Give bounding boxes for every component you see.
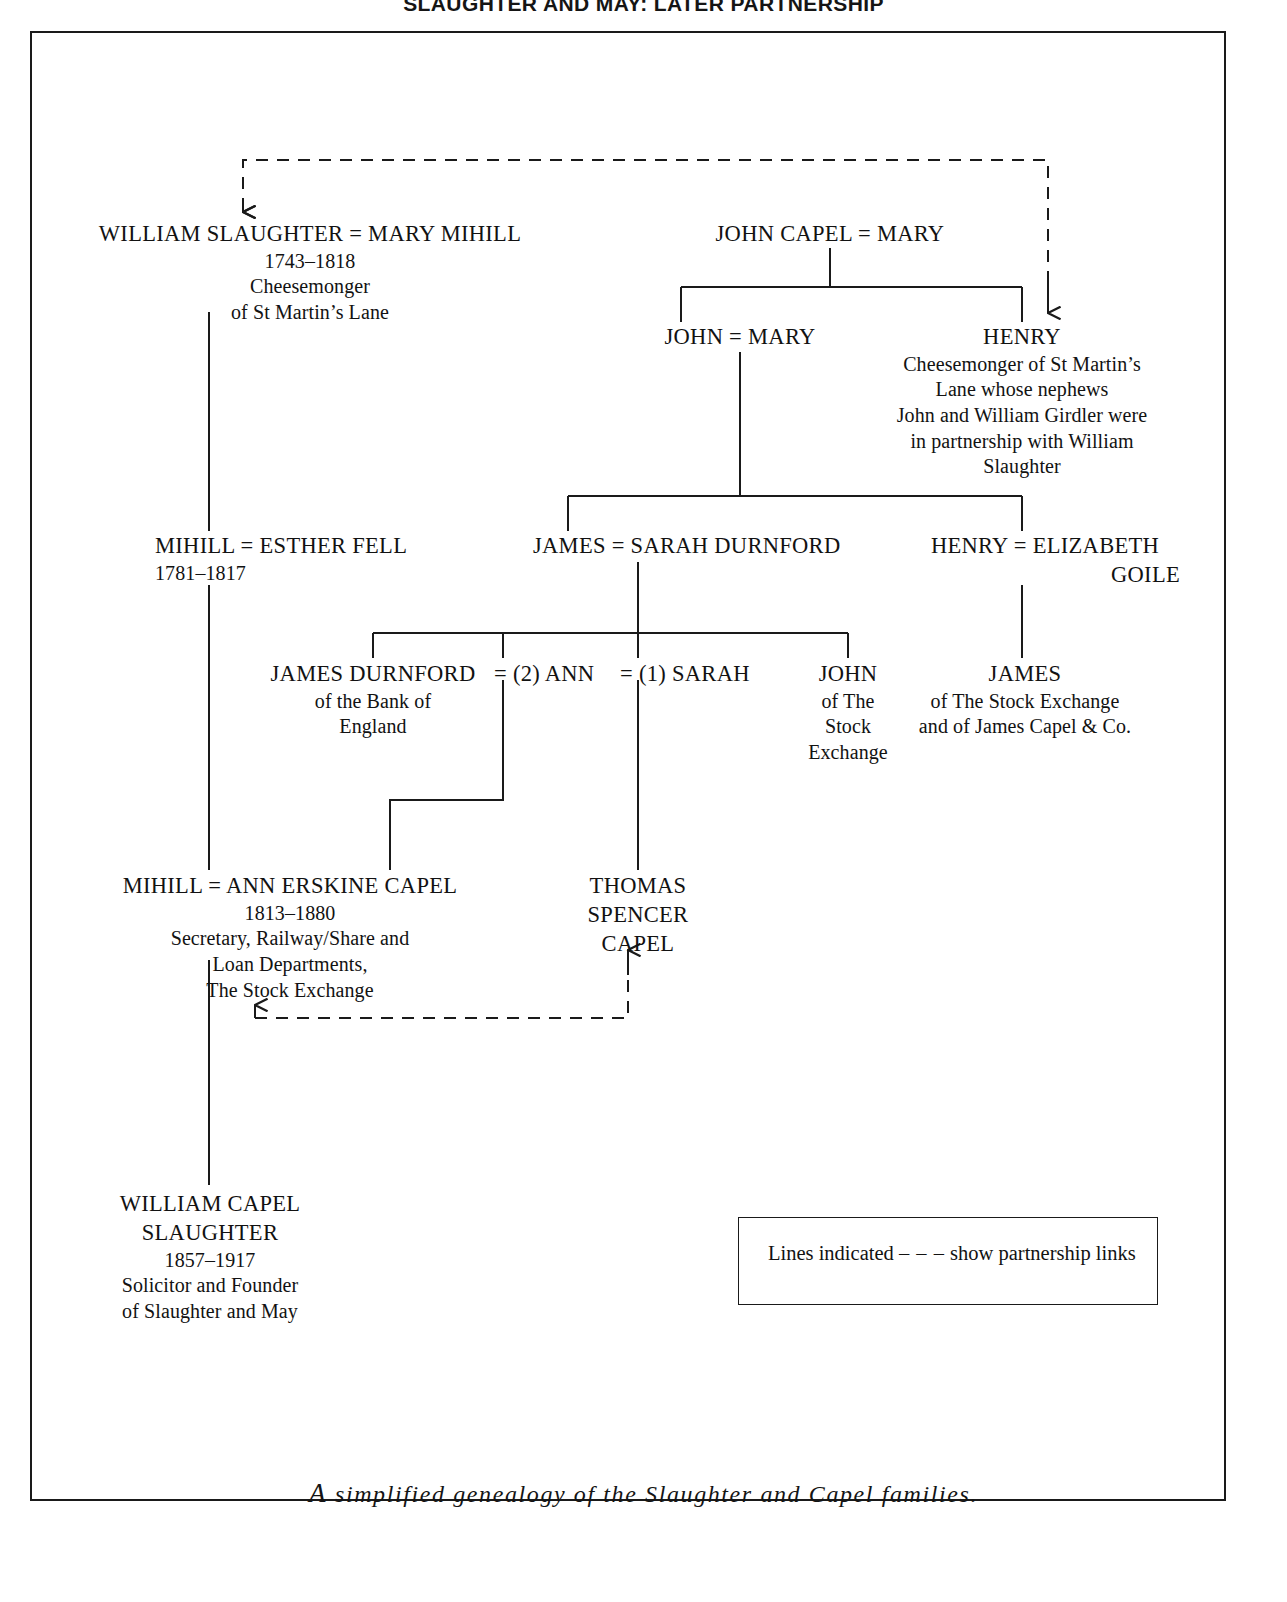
node-james-durnford-name: JAMES DURNFORD [218, 660, 528, 689]
node-mihill-ann-dates: 1813–1880 [40, 901, 540, 927]
node-william-slaughter-desc-2: of St Martin’s Lane [40, 300, 580, 326]
node-john-capel-name: JOHN CAPEL = MARY [650, 220, 1010, 249]
legend-dash-sample: – – – [899, 1242, 945, 1264]
node-thomas-spencer-capel-name-1: THOMAS [558, 872, 718, 901]
node-henry-cheesemonger-desc-3: John and William Girdler were [872, 403, 1172, 429]
caption-rest: simplified genealogy of the Slaughter an… [335, 1481, 978, 1507]
node-john-stock-exchange-desc-1: of The [783, 689, 913, 715]
node-john-stock-exchange-desc-3: Exchange [783, 740, 913, 766]
node-william-capel-slaughter-desc-2: of Slaughter and May [40, 1299, 380, 1325]
legend-text: Lines indicated – – – show partnership l… [768, 1240, 1136, 1268]
node-james-stock-exchange: JAMES of The Stock Exchange and of James… [900, 660, 1150, 740]
node-james-durnford: JAMES DURNFORD of the Bank of England [218, 660, 528, 740]
genealogy-plate: SLAUGHTER AND MAY: LATER PARTNERSHIP [0, 0, 1287, 1602]
node-james-stock-exchange-name: JAMES [900, 660, 1150, 689]
node-john-stock-exchange-name: JOHN [783, 660, 913, 689]
node-william-slaughter-dates: 1743–1818 [40, 249, 580, 275]
node-thomas-spencer-capel: THOMAS SPENCER CAPEL [558, 872, 718, 958]
node-henry-elizabeth-name-1: HENRY = ELIZABETH [910, 532, 1180, 561]
node-mihill-ann-name: MIHILL = ANN ERSKINE CAPEL [40, 872, 540, 901]
legend-text-before: Lines indicated [768, 1242, 894, 1264]
node-henry-cheesemonger: HENRY Cheesemonger of St Martin’s Lane w… [872, 323, 1172, 480]
node-james-durnford-desc-1: of the Bank of [218, 689, 528, 715]
running-header: SLAUGHTER AND MAY: LATER PARTNERSHIP [0, 0, 1287, 16]
node-mihill-ann-desc-2: Loan Departments, [40, 952, 540, 978]
node-james-sarah: JAMES = SARAH DURNFORD [533, 532, 953, 561]
node-james-durnford-desc-2: England [218, 714, 528, 740]
node-thomas-spencer-capel-name-3: CAPEL [558, 930, 718, 959]
legend-text-after: show partnership links [950, 1242, 1136, 1264]
node-henry-cheesemonger-desc-2: Lane whose nephews [872, 377, 1172, 403]
node-mihill-esther-dates: 1781–1817 [155, 561, 555, 587]
caption-lead: A [309, 1478, 328, 1508]
node-william-capel-slaughter-name-1: WILLIAM CAPEL [40, 1190, 380, 1219]
node-henry-elizabeth: HENRY = ELIZABETH GOILE [910, 532, 1180, 590]
figure-caption: A simplified genealogy of the Slaughter … [0, 1478, 1287, 1509]
node-john-mary-name: JOHN = MARY [600, 323, 880, 352]
node-mihill-ann: MIHILL = ANN ERSKINE CAPEL 1813–1880 Sec… [40, 872, 540, 1003]
node-henry-elizabeth-name-2: GOILE [910, 561, 1180, 590]
node-mihill-ann-desc-1: Secretary, Railway/Share and [40, 926, 540, 952]
node-william-capel-slaughter-desc-1: Solicitor and Founder [40, 1273, 380, 1299]
node-john-capel: JOHN CAPEL = MARY [650, 220, 1010, 249]
node-william-slaughter-desc-1: Cheesemonger [40, 274, 580, 300]
node-mihill-ann-desc-3: The Stock Exchange [40, 978, 540, 1004]
node-henry-cheesemonger-name: HENRY [872, 323, 1172, 352]
node-mihill-esther-name: MIHILL = ESTHER FELL [155, 532, 555, 561]
node-john-stock-exchange: JOHN of The Stock Exchange [783, 660, 913, 766]
node-james-stock-exchange-desc-2: and of James Capel & Co. [900, 714, 1150, 740]
node-james-stock-exchange-desc-1: of The Stock Exchange [900, 689, 1150, 715]
node-william-capel-slaughter: WILLIAM CAPEL SLAUGHTER 1857–1917 Solici… [40, 1190, 380, 1324]
node-william-slaughter-name: WILLIAM SLAUGHTER = MARY MIHILL [40, 220, 580, 249]
node-william-slaughter: WILLIAM SLAUGHTER = MARY MIHILL 1743–181… [40, 220, 580, 326]
node-mihill-esther: MIHILL = ESTHER FELL 1781–1817 [155, 532, 555, 586]
node-henry-cheesemonger-desc-1: Cheesemonger of St Martin’s [872, 352, 1172, 378]
node-john-mary: JOHN = MARY [600, 323, 880, 352]
node-john-stock-exchange-desc-2: Stock [783, 714, 913, 740]
node-james-sarah-name: JAMES = SARAH DURNFORD [533, 532, 953, 561]
node-henry-cheesemonger-desc-5: Slaughter [872, 454, 1172, 480]
node-william-capel-slaughter-dates: 1857–1917 [40, 1248, 380, 1274]
node-thomas-spencer-capel-name-2: SPENCER [558, 901, 718, 930]
node-william-capel-slaughter-name-2: SLAUGHTER [40, 1219, 380, 1248]
node-henry-cheesemonger-desc-4: in partnership with William [872, 429, 1172, 455]
